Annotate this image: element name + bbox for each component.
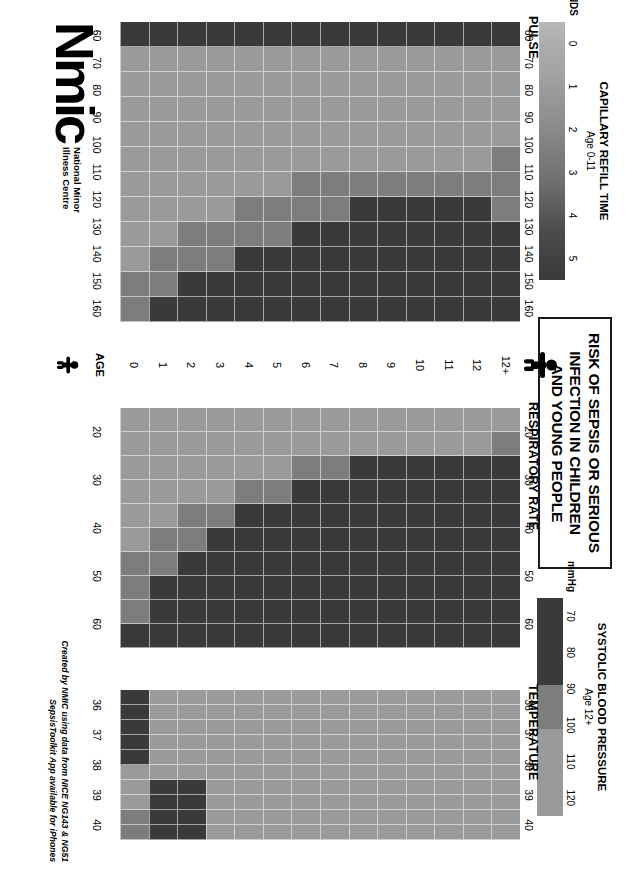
- heatmap-cell: [234, 432, 263, 456]
- heatmap-cell: [377, 22, 406, 47]
- heatmap-cell: [320, 72, 349, 97]
- heatmap-cell: [463, 122, 492, 147]
- heatmap-cell: [463, 147, 492, 172]
- heatmap-cell: [177, 735, 206, 750]
- axis-tick: 100: [565, 717, 576, 734]
- axis-tick: 4: [567, 213, 578, 219]
- heatmap-cell: [406, 624, 435, 648]
- heatmap-cell: [463, 825, 492, 840]
- heatmap-cell: [177, 690, 206, 705]
- axis-tick: 120: [565, 789, 576, 806]
- heatmap-cell: [377, 72, 406, 97]
- heatmap-cell: [291, 122, 320, 147]
- heatmap-cell: [149, 528, 178, 552]
- heatmap-cell: [320, 624, 349, 648]
- heatmap-cell: [406, 222, 435, 247]
- heatmap-cell: [291, 720, 320, 735]
- heatmap-cell: [149, 197, 178, 222]
- heatmap-cell: [406, 408, 435, 432]
- heatmap-cell: [263, 97, 292, 122]
- heatmap-cell: [434, 810, 463, 825]
- heatmap-cell: [291, 172, 320, 197]
- temp-x-axis-top: 3637383940: [521, 690, 535, 840]
- heatmap-cell: [149, 456, 178, 480]
- sbp-legend-segment: [537, 685, 563, 729]
- heatmap-cell: [206, 456, 235, 480]
- axis-tick: 80: [523, 84, 535, 96]
- heatmap-cell: [263, 47, 292, 72]
- heatmap-cell: [491, 705, 520, 720]
- heatmap-cell: [320, 247, 349, 272]
- resp-x-axis-bottom: 2030405060: [89, 408, 103, 648]
- heatmap-cell: [149, 810, 178, 825]
- heatmap-cell: [177, 432, 206, 456]
- heatmap-cell: [234, 735, 263, 750]
- heatmap-cell: [377, 624, 406, 648]
- heatmap-cell: [406, 297, 435, 322]
- heatmap-cell: [291, 576, 320, 600]
- heatmap-cell: [463, 810, 492, 825]
- heatmap-cell: [263, 408, 292, 432]
- heatmap-cell: [463, 456, 492, 480]
- heatmap-cell: [234, 504, 263, 528]
- nmic-logo-subtitle: National Minor Illness Centre: [53, 147, 82, 213]
- heatmap-cell: [206, 825, 235, 840]
- axis-tick: 37: [523, 729, 535, 741]
- axis-tick: 100: [523, 136, 535, 154]
- heatmap-cell: [349, 222, 378, 247]
- heatmap-cell: [491, 47, 520, 72]
- axis-tick: 39: [523, 789, 535, 801]
- heatmap-cell: [149, 576, 178, 600]
- heatmap-cell: [263, 504, 292, 528]
- temp-x-axis-bottom: 3637383940: [89, 690, 103, 840]
- heatmap-cell: [434, 122, 463, 147]
- heatmap-cell: [177, 122, 206, 147]
- heatmap-cell: [377, 197, 406, 222]
- heatmap-cell: [234, 780, 263, 795]
- sbp-tick-row: 708090100110120: [563, 598, 576, 816]
- heatmap-cell: [491, 810, 520, 825]
- axis-tick: 70: [565, 611, 576, 622]
- axis-tick: 1: [567, 84, 578, 90]
- heatmap-cell: [234, 810, 263, 825]
- heatmap-cell: [291, 795, 320, 810]
- age-axis-label: 12: [471, 330, 483, 400]
- heatmap-cell: [291, 504, 320, 528]
- capillary-refill-legend: CAPILLARY REFILL TIME Age 0-11 SECONDS 0…: [539, 22, 610, 280]
- heatmap-cell: [320, 122, 349, 147]
- age-axis-label: 0: [128, 330, 140, 400]
- heatmap-cell: [463, 552, 492, 576]
- heatmap-cell: [491, 750, 520, 765]
- heatmap-cell: [149, 122, 178, 147]
- heatmap-cell: [149, 600, 178, 624]
- age-axis-label: 4: [243, 330, 255, 400]
- heatmap-cell: [291, 72, 320, 97]
- heatmap-cell: [206, 765, 235, 780]
- heatmap-cell: [349, 750, 378, 765]
- heatmap-cell: [349, 765, 378, 780]
- heatmap-cell: [263, 197, 292, 222]
- heatmap-cell: [434, 780, 463, 795]
- heatmap-cell: [206, 22, 235, 47]
- heatmap-cell: [177, 576, 206, 600]
- heatmap-cell: [149, 72, 178, 97]
- heatmap-cell: [434, 690, 463, 705]
- heatmap-cell: [120, 147, 149, 172]
- heatmap-cell: [406, 795, 435, 810]
- heatmap-cell: [349, 795, 378, 810]
- heatmap-cell: [320, 750, 349, 765]
- heatmap-cell: [263, 247, 292, 272]
- axis-tick: 60: [523, 30, 535, 42]
- heatmap-cell: [491, 147, 520, 172]
- heatmap-cell: [463, 297, 492, 322]
- heatmap-cell: [349, 147, 378, 172]
- heatmap-cell: [406, 147, 435, 172]
- heatmap-cell: [491, 576, 520, 600]
- heatmap-cell: [206, 795, 235, 810]
- heatmap-cell: [320, 810, 349, 825]
- heatmap-cell: [406, 780, 435, 795]
- heatmap-cell: [120, 247, 149, 272]
- heatmap-cell: [406, 197, 435, 222]
- heatmap-cell: [463, 780, 492, 795]
- heatmap-cell: [149, 780, 178, 795]
